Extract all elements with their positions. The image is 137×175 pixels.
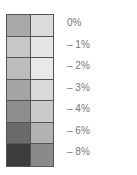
swatch-left — [7, 123, 31, 144]
swatch-right — [31, 80, 54, 101]
swatch-left — [7, 101, 31, 122]
legend-label: – 4% — [67, 98, 90, 120]
legend-label: 0% — [67, 12, 90, 34]
legend-label: – 1% — [67, 34, 90, 56]
legend-row — [7, 123, 53, 145]
swatch-right — [31, 15, 54, 36]
legend-row — [7, 37, 53, 59]
legend-label: – 3% — [67, 77, 90, 99]
legend-row — [7, 101, 53, 123]
swatch-left — [7, 80, 31, 101]
swatch-right — [31, 144, 54, 166]
legend-label: – 6% — [67, 120, 90, 142]
legend-row — [7, 80, 53, 102]
legend-labels: 0%– 1%– 2%– 3%– 4%– 6%– 8% — [67, 14, 90, 165]
color-scale-legend — [6, 14, 54, 167]
swatch-right — [31, 58, 54, 79]
legend-row — [7, 58, 53, 80]
swatch-right — [31, 101, 54, 122]
swatch-right — [31, 37, 54, 58]
swatch-right — [31, 123, 54, 144]
legend-label: – 8% — [67, 141, 90, 163]
legend-row — [7, 144, 53, 166]
legend-row — [7, 15, 53, 37]
swatch-left — [7, 58, 31, 79]
legend-label: – 2% — [67, 55, 90, 77]
swatch-left — [7, 37, 31, 58]
swatch-left — [7, 15, 31, 36]
swatch-left — [7, 144, 31, 166]
